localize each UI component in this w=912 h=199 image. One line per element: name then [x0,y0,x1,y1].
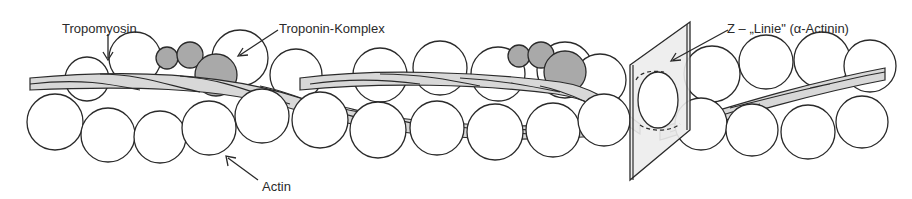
thin-filament-diagram: .a { fill: #ffffff; stroke: #2a2a2a; str… [0,0,912,199]
label-actin: Actin [262,180,291,193]
label-tropomyosin: Tropomyosin [62,22,137,35]
label-z-line: Z – „Linie" (α-Actinin) [727,22,849,35]
label-troponin-complex: Troponin-Komplex [279,22,385,35]
z-line-plane [630,22,690,180]
